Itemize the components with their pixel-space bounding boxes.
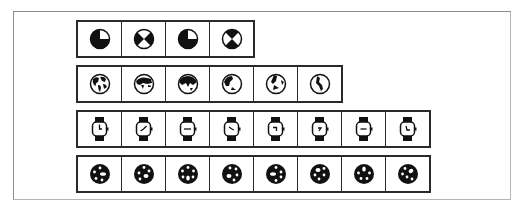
beachball-icon [89, 28, 111, 50]
ball-frame-5 [298, 157, 342, 191]
watch-icon [398, 116, 418, 142]
ball-frame-6 [342, 157, 386, 191]
globe-row [76, 65, 343, 103]
ball-row [76, 155, 431, 193]
watch-icon [178, 116, 198, 142]
globe-icon [309, 73, 331, 95]
ball-icon [221, 163, 243, 185]
watch-icon [266, 116, 286, 142]
beachball-frame-3 [210, 22, 253, 56]
ball-icon [265, 163, 287, 185]
watch-icon [310, 116, 330, 142]
watch-icon [134, 116, 154, 142]
ball-icon [309, 163, 331, 185]
globe-frame-4 [254, 67, 298, 101]
ball-frame-1 [122, 157, 166, 191]
ball-icon [177, 163, 199, 185]
ball-frame-0 [78, 157, 122, 191]
beachball-icon [221, 28, 243, 50]
watch-icon [222, 116, 242, 142]
globe-frame-3 [210, 67, 254, 101]
globe-frame-0 [78, 67, 122, 101]
watch-frame-3 [210, 112, 254, 146]
ball-frame-4 [254, 157, 298, 191]
globe-frame-1 [122, 67, 166, 101]
ball-icon [89, 163, 111, 185]
ball-frame-2 [166, 157, 210, 191]
beachball-frame-2 [166, 22, 210, 56]
globe-icon [177, 73, 199, 95]
globe-icon [221, 73, 243, 95]
watch-frame-5 [298, 112, 342, 146]
watch-frame-4 [254, 112, 298, 146]
beachball-frame-1 [122, 22, 166, 56]
ball-icon [397, 163, 419, 185]
ball-frame-7 [386, 157, 429, 191]
watch-frame-0 [78, 112, 122, 146]
watch-frame-2 [166, 112, 210, 146]
watch-row [76, 110, 431, 148]
globe-icon [133, 73, 155, 95]
globe-frame-5 [298, 67, 341, 101]
watch-frame-6 [342, 112, 386, 146]
watch-frame-1 [122, 112, 166, 146]
globe-icon [89, 73, 111, 95]
ball-icon [133, 163, 155, 185]
beachball-icon [133, 28, 155, 50]
globe-frame-2 [166, 67, 210, 101]
watch-frame-7 [386, 112, 429, 146]
ball-icon [353, 163, 375, 185]
watch-icon [354, 116, 374, 142]
beachball-icon [177, 28, 199, 50]
beachball-frame-0 [78, 22, 122, 56]
watch-icon [90, 116, 110, 142]
beachball-row [76, 20, 255, 58]
ball-frame-3 [210, 157, 254, 191]
globe-icon [265, 73, 287, 95]
